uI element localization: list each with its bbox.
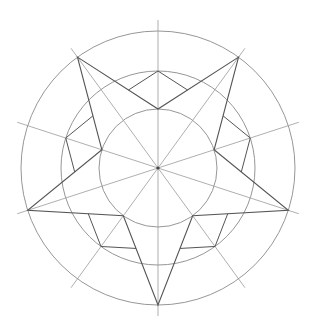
rhombus-detail <box>223 116 250 172</box>
star-construction-diagram <box>0 0 313 332</box>
radial-line <box>158 48 245 168</box>
radial-line <box>158 168 299 214</box>
center-point <box>156 166 159 169</box>
radial-line <box>71 168 158 288</box>
rhombus-detail <box>66 116 93 172</box>
radial-line <box>158 168 245 288</box>
radial-line <box>17 168 158 214</box>
radial-line <box>71 48 158 168</box>
